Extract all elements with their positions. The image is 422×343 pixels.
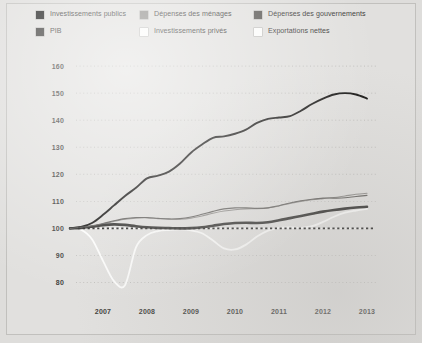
legend-label-exportations-nettes: Exportations nettes [268,27,330,36]
x-axis-labels: 2007200820092010201120122013 [95,308,375,315]
legend-item-investissements-publics: Investissements publics [36,10,126,19]
legend-swatch-depenses-des-gouvernements [254,11,262,19]
x-tick-2008: 2008 [139,308,155,315]
x-tick-2010: 2010 [227,308,243,315]
series-line-investissements-publics [70,93,367,228]
y-tick-120: 120 [52,171,64,178]
y-tick-80: 80 [56,279,64,286]
y-tick-100: 100 [52,225,64,232]
legend-label-depenses-des-gouvernements: Dépenses des gouvernements [268,10,366,19]
legend-swatch-investissements-prives [140,28,148,36]
legend-swatch-pib [36,28,44,36]
line-chart: 8090100110120130140150160 20072008200920… [0,44,422,329]
legend-item-investissements-prives: Investissements privés [140,27,227,36]
legend-item-pib: PIB [36,27,62,36]
legend-label-investissements-prives: Investissements privés [154,27,227,36]
chart-svg: 8090100110120130140150160 20072008200920… [0,44,422,329]
legend-item-depenses-des-menages: Dépenses des ménages [140,10,232,19]
legend-swatch-investissements-publics [36,11,44,19]
x-tick-2012: 2012 [315,308,331,315]
y-axis-labels: 8090100110120130140150160 [52,63,64,286]
legend-swatch-depenses-des-menages [140,11,148,19]
legend-label-depenses-des-menages: Dépenses des ménages [154,10,232,19]
legend-row-2: PIB Investissements privés Exportations … [36,27,406,44]
x-tick-2013: 2013 [359,308,375,315]
x-tick-2007: 2007 [95,308,111,315]
y-tick-110: 110 [52,198,64,205]
y-tick-160: 160 [52,63,64,70]
x-tick-2011: 2011 [271,308,287,315]
chart-page: Investissements publics Dépenses des mén… [0,0,422,343]
legend-row-1: Investissements publics Dépenses des mén… [36,10,406,27]
legend-item-depenses-des-gouvernements: Dépenses des gouvernements [254,10,366,19]
x-tick-2009: 2009 [183,308,199,315]
y-tick-150: 150 [52,90,64,97]
y-tick-130: 130 [52,144,64,151]
legend-swatch-exportations-nettes [254,28,262,36]
chart-legend: Investissements publics Dépenses des mén… [36,10,406,44]
legend-label-investissements-publics: Investissements publics [50,10,126,19]
legend-item-exportations-nettes: Exportations nettes [254,27,330,36]
y-tick-140: 140 [52,117,64,124]
series-layer [70,93,367,287]
y-tick-90: 90 [56,252,64,259]
legend-label-pib: PIB [50,27,62,36]
